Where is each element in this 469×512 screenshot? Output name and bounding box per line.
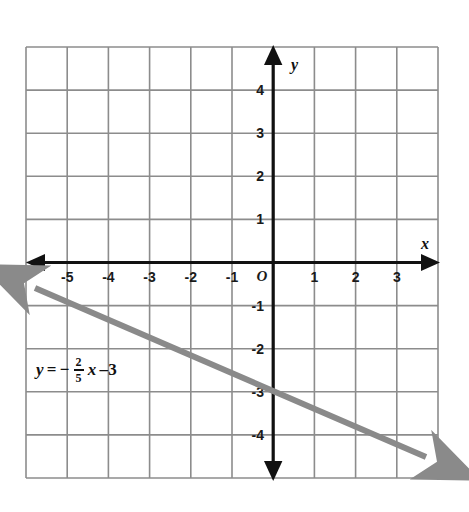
y-tick-label-1: 1 <box>256 211 264 227</box>
y-tick-label-4: 4 <box>256 82 264 98</box>
x-tick-label--1: -1 <box>226 269 239 285</box>
equation-annotation: y = − 2 5 x –3 <box>36 356 117 384</box>
x-tick-label-2: 2 <box>352 269 360 285</box>
x-tick-label--2: -2 <box>185 269 198 285</box>
x-tick-label--5: -5 <box>61 269 74 285</box>
origin-label: O <box>257 268 268 284</box>
equation-constant: –3 <box>99 360 116 380</box>
x-tick-label--3: -3 <box>143 269 156 285</box>
coordinate-plane-figure: -5 -4 -3 -2 -1 1 2 3 O 4 3 2 1 -1 -2 -3 … <box>0 0 469 512</box>
equation-negative-sign: − <box>60 360 70 380</box>
equation-lhs: y <box>36 360 44 380</box>
x-axis-arrow-right <box>421 254 440 271</box>
equation-variable: x <box>88 360 97 380</box>
equation-equals-sign: = <box>47 360 57 380</box>
y-axis-arrow-up <box>264 45 282 65</box>
equation-fraction-numerator: 2 <box>74 356 84 369</box>
x-tick-label--4: -4 <box>102 269 115 285</box>
equation-fraction-denominator: 5 <box>74 371 84 384</box>
y-tick-label-2: 2 <box>256 168 264 184</box>
graph-canvas: -5 -4 -3 -2 -1 1 2 3 O 4 3 2 1 -1 -2 -3 … <box>0 0 469 512</box>
y-axis-name-label: y <box>289 56 299 74</box>
y-tick-label-3: 3 <box>256 125 264 141</box>
x-axis-name-label: x <box>420 235 429 252</box>
y-tick-label--4: -4 <box>252 427 265 443</box>
x-tick-label-1: 1 <box>311 269 319 285</box>
equation-fraction: 2 5 <box>74 356 84 384</box>
x-tick-label-3: 3 <box>393 269 401 285</box>
y-tick-label--1: -1 <box>252 298 265 314</box>
x-axis-arrow-left <box>26 254 45 271</box>
y-tick-label--2: -2 <box>252 341 265 357</box>
